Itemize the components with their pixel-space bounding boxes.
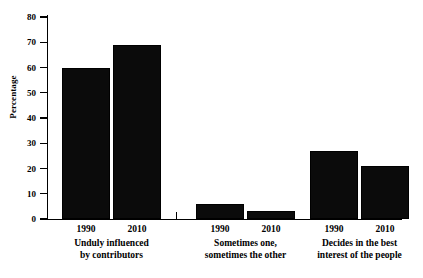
- y-axis-tick-label: 20: [14, 164, 36, 174]
- bar-chart: Percentage 01020304050607080 19902010Und…: [0, 0, 423, 278]
- x-axis-group-caption: Sometimes one,sometimes the other: [205, 238, 286, 261]
- y-axis-tick: [40, 42, 47, 43]
- y-axis-tick: [40, 16, 47, 17]
- y-axis-tick-label: 30: [14, 138, 36, 148]
- x-axis-year-label: 1990: [77, 224, 96, 234]
- x-axis-group-caption-line: sometimes the other: [205, 250, 286, 262]
- y-axis-tick-label: 10: [14, 189, 36, 199]
- x-axis-group-caption: Decides in the bestinterest of the peopl…: [317, 238, 402, 261]
- x-axis-group-divider: [176, 212, 177, 219]
- y-axis-tick-label: 60: [14, 63, 36, 73]
- y-axis-line: [47, 15, 48, 220]
- x-axis-year-label: 2010: [128, 224, 147, 234]
- y-axis-tick-label: 80: [14, 12, 36, 22]
- y-axis-tick: [40, 92, 47, 93]
- x-axis-group-caption-line: Unduly influenced: [74, 238, 149, 250]
- y-axis-tick: [40, 143, 47, 144]
- y-axis-tick: [40, 67, 47, 68]
- bar: [62, 68, 110, 220]
- bar: [310, 151, 358, 219]
- x-axis-group-caption-line: Decides in the best: [317, 238, 402, 250]
- y-axis-tick: [40, 117, 47, 118]
- x-axis-group-caption-line: Sometimes one,: [205, 238, 286, 250]
- x-axis-year-label: 2010: [376, 224, 395, 234]
- bar: [361, 166, 409, 219]
- x-axis-year-label: 1990: [211, 224, 230, 234]
- y-axis-tick-label: 40: [14, 113, 36, 123]
- x-axis-group-caption-line: by contributors: [74, 250, 149, 262]
- bar: [113, 45, 161, 219]
- y-axis-tick-label: 0: [14, 214, 36, 224]
- y-axis-tick-label: 50: [14, 88, 36, 98]
- y-axis-tick: [40, 168, 47, 169]
- bar: [196, 204, 244, 219]
- y-axis-tick: [40, 218, 47, 219]
- bar: [247, 211, 295, 219]
- x-axis-year-label: 2010: [262, 224, 281, 234]
- x-axis-group-caption-line: interest of the people: [317, 250, 402, 262]
- x-axis-group-caption: Unduly influencedby contributors: [74, 238, 149, 261]
- y-axis-tick: [40, 193, 47, 194]
- y-axis-tick-label: 70: [14, 37, 36, 47]
- x-axis-year-label: 1990: [325, 224, 344, 234]
